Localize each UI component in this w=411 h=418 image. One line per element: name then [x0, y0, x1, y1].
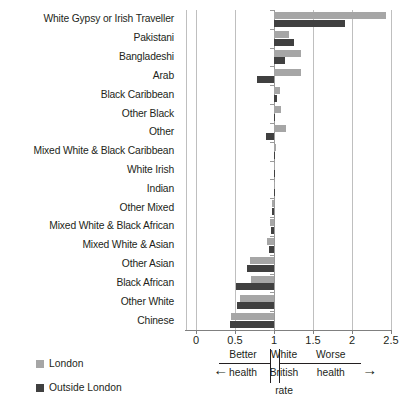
chart-legend: LondonOutside London — [36, 358, 186, 406]
legend-label: Outside London — [49, 382, 122, 394]
category-label: White Irish — [0, 164, 174, 175]
bar-outside-london — [236, 283, 274, 290]
gridline — [235, 10, 236, 330]
bar-outside-london — [266, 133, 274, 140]
bar-outside-london — [257, 76, 274, 83]
category-tick — [270, 330, 274, 331]
bar-outside-london — [274, 39, 294, 46]
x-tick-label: 1 — [271, 334, 277, 347]
bar-london — [267, 238, 274, 245]
bar-outside-london — [237, 302, 274, 309]
legend-item[interactable]: Outside London — [36, 382, 122, 394]
annotation-british: British — [270, 367, 299, 379]
category-label: Arab — [0, 70, 174, 81]
category-tick — [270, 236, 274, 237]
x-tick-label: 2 — [349, 334, 355, 347]
x-axis-line — [185, 330, 391, 331]
x-axis-tick-labels: 00.511.522.5 — [196, 334, 396, 348]
gridline — [196, 10, 197, 330]
bar-london — [274, 182, 275, 189]
bar-outside-london — [230, 321, 274, 328]
bar-outside-london — [272, 208, 274, 215]
category-label: Chinese — [0, 315, 174, 326]
annotation-rate: rate — [275, 385, 293, 397]
legend-item[interactable]: London — [36, 358, 83, 370]
bar-london — [240, 295, 274, 302]
category-tick — [270, 104, 274, 105]
category-label: Indian — [0, 183, 174, 194]
legend-label: London — [49, 358, 83, 370]
axis-annotation-block: Better health White British rate Worse h… — [196, 349, 396, 411]
bar-outside-london — [274, 20, 345, 27]
bar-outside-london — [274, 95, 277, 102]
category-label: Pakistani — [0, 32, 174, 43]
category-label: White Gypsy or Irish Traveller — [0, 13, 174, 24]
annotation-divider-left — [270, 349, 271, 383]
annotation-divider-right — [279, 349, 280, 383]
bar-london — [274, 50, 301, 57]
category-tick — [270, 85, 274, 86]
bar-outside-london — [274, 189, 275, 196]
annotation-better-health: health — [229, 367, 257, 379]
x-tick-label: 0.5 — [227, 334, 242, 347]
category-label: Other Asian — [0, 258, 174, 269]
gridline — [352, 10, 353, 330]
bar-london — [272, 200, 274, 207]
category-label: Mixed White & Black African — [0, 220, 174, 231]
category-tick — [270, 217, 274, 218]
bar-outside-london — [274, 152, 275, 159]
category-tick — [270, 123, 274, 124]
plot-left-border — [186, 10, 187, 330]
plot-area — [196, 10, 391, 330]
bar-london — [270, 219, 274, 226]
bar-london — [274, 106, 281, 113]
ethnicity-health-bar-chart: White Gypsy or Irish TravellerPakistaniB… — [0, 0, 411, 418]
category-tick — [270, 48, 274, 49]
bar-london — [274, 87, 280, 94]
x-tick-label: 0 — [193, 334, 199, 347]
category-tick — [270, 198, 274, 199]
category-axis-labels: White Gypsy or Irish TravellerPakistaniB… — [0, 10, 180, 330]
bar-london — [274, 125, 286, 132]
bar-outside-london — [274, 114, 275, 121]
category-tick — [270, 161, 274, 162]
category-tick — [270, 142, 274, 143]
category-label: Bangladeshi — [0, 51, 174, 62]
category-tick — [270, 292, 274, 293]
annotation-white: White — [271, 349, 297, 361]
bar-london — [274, 144, 276, 151]
category-tick — [270, 311, 274, 312]
category-label: Mixed White & Asian — [0, 239, 174, 250]
category-label: Other — [0, 126, 174, 137]
annotation-worse: Worse — [316, 349, 346, 361]
annotation-worse-health: health — [317, 367, 345, 379]
bar-london — [251, 276, 274, 283]
bar-london — [274, 31, 289, 38]
annotation-rule-left — [219, 363, 270, 364]
bar-outside-london — [269, 246, 274, 253]
legend-swatch-icon — [36, 360, 44, 368]
x-tick-label: 2.5 — [383, 334, 398, 347]
category-tick — [270, 10, 274, 11]
bar-london — [231, 313, 274, 320]
bar-outside-london — [271, 227, 274, 234]
category-tick — [270, 274, 274, 275]
annotation-better: Better — [229, 349, 256, 361]
annotation-rule-right — [279, 363, 362, 364]
category-tick — [270, 255, 274, 256]
category-tick — [270, 66, 274, 67]
gridline — [313, 10, 314, 330]
bar-london — [274, 163, 275, 170]
bar-outside-london — [274, 57, 285, 64]
category-label: Other Black — [0, 108, 174, 119]
category-label: Black African — [0, 277, 174, 288]
bar-london — [274, 12, 386, 19]
legend-swatch-icon — [36, 384, 44, 392]
category-tick — [270, 179, 274, 180]
category-label: Black Caribbean — [0, 89, 174, 100]
bar-london — [250, 257, 274, 264]
x-tick-label: 1.5 — [305, 334, 320, 347]
category-label: Mixed White & Black Caribbean — [0, 145, 174, 156]
bar-london — [274, 69, 301, 76]
category-label: Other White — [0, 296, 174, 307]
